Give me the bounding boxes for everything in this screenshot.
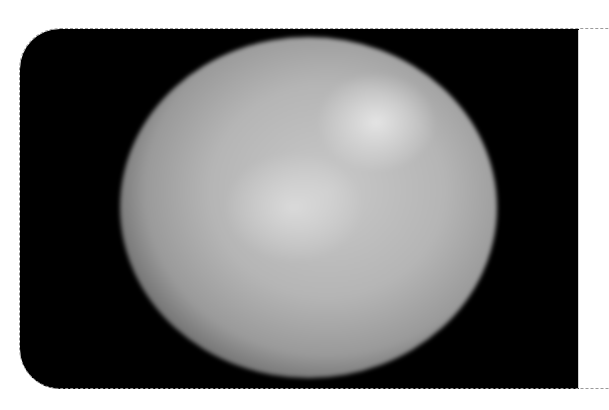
planet-sphere	[120, 37, 497, 378]
image-frame	[20, 29, 579, 389]
frame-right-edge	[578, 30, 579, 388]
